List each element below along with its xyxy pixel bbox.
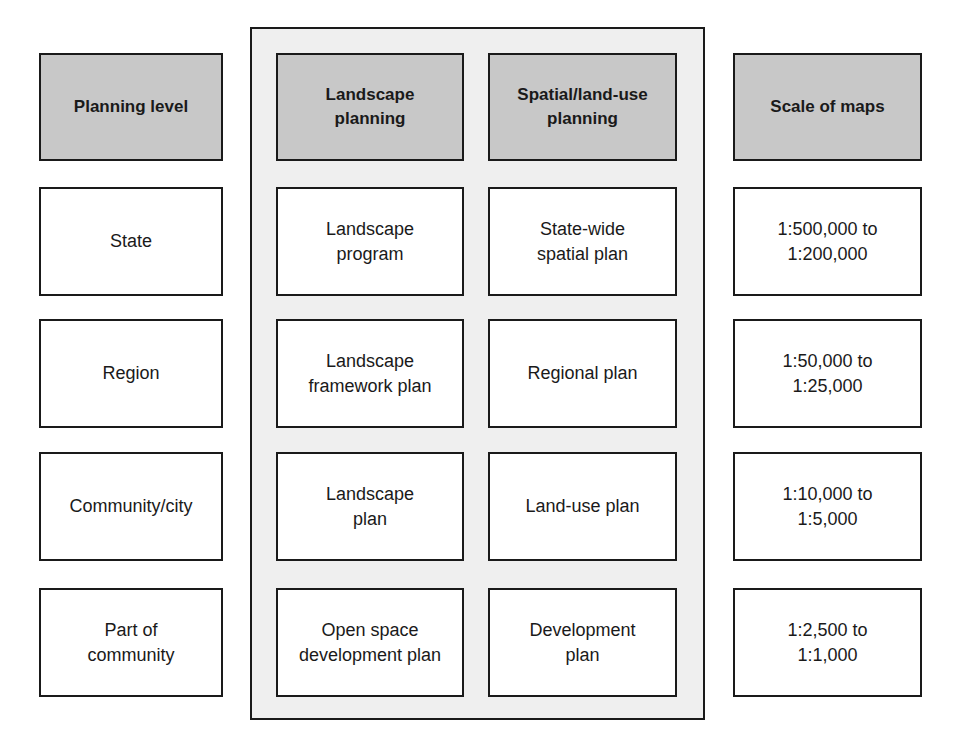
level-community-city: Community/city — [39, 452, 223, 561]
header-spatial-planning: Spatial/land-use planning — [488, 53, 677, 161]
scale-state: 1:500,000 to 1:200,000 — [733, 187, 922, 296]
header-scale-of-maps: Scale of maps — [733, 53, 922, 161]
scale-part-of-community: 1:2,500 to 1:1,000 — [733, 588, 922, 697]
level-region: Region — [39, 319, 223, 428]
scale-community: 1:10,000 to 1:5,000 — [733, 452, 922, 561]
header-landscape-planning: Landscape planning — [276, 53, 464, 161]
landscape-program: Landscape program — [276, 187, 464, 296]
landscape-plan: Landscape plan — [276, 452, 464, 561]
level-state: State — [39, 187, 223, 296]
landscape-framework-plan: Landscape framework plan — [276, 319, 464, 428]
land-use-plan: Land-use plan — [488, 452, 677, 561]
level-part-of-community: Part of community — [39, 588, 223, 697]
scale-region: 1:50,000 to 1:25,000 — [733, 319, 922, 428]
open-space-development-plan: Open space development plan — [276, 588, 464, 697]
regional-plan: Regional plan — [488, 319, 677, 428]
development-plan: Development plan — [488, 588, 677, 697]
statewide-spatial-plan: State-wide spatial plan — [488, 187, 677, 296]
header-planning-level: Planning level — [39, 53, 223, 161]
